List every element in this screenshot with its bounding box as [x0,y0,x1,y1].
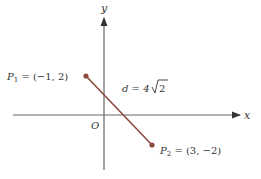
point-p2 [149,142,154,147]
distance-label: d = 4 [122,83,150,94]
y-axis-label: y [100,2,108,15]
point-p1 [83,73,88,78]
point-p1-label: P1 = (−1, 2) [6,71,68,84]
distance-diagram: x y O P1 = (−1, 2) P2 = (3, −2) d = 4 2 [0,0,261,179]
point-p2-label: P2 = (3, −2) [159,145,221,158]
origin-label: O [91,120,99,131]
distance-radicand: 2 [159,83,165,94]
x-axis-label: x [244,109,251,122]
